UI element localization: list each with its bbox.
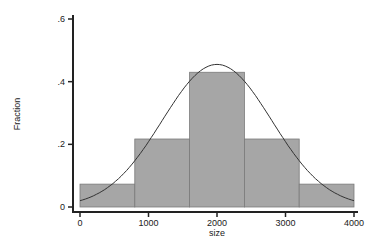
y-tick-label: 0: [60, 202, 65, 212]
y-ticks: 0.2.4.6: [57, 14, 73, 212]
x-tick-label: 0: [77, 218, 82, 228]
histogram-chart: 0.2.4.6 01000200030004000 Fraction size: [0, 0, 377, 247]
x-tick-label: 4000: [344, 218, 364, 228]
y-tick-label: .2: [57, 139, 65, 149]
histogram-bar: [190, 72, 245, 207]
histogram-bars: [80, 72, 354, 207]
x-ticks: 01000200030004000: [77, 212, 364, 228]
y-tick-label: .4: [57, 77, 65, 87]
x-tick-label: 2000: [207, 218, 227, 228]
x-tick-label: 3000: [275, 218, 295, 228]
x-axis-label: size: [209, 228, 225, 238]
y-axis-label: Fraction: [12, 98, 22, 131]
y-tick-label: .6: [57, 14, 65, 24]
x-tick-label: 1000: [138, 218, 158, 228]
